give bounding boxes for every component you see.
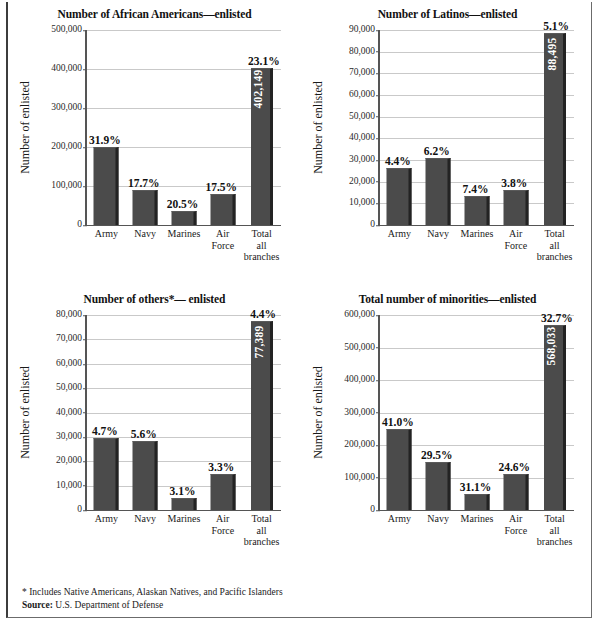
bar-percent-label: 3.3% <box>208 461 234 473</box>
bar[interactable]: 3.1% <box>171 498 196 510</box>
bar-slot: 17.7% <box>126 30 165 225</box>
x-axis-tick-label: Army <box>87 228 126 240</box>
y-axis-tick-label: 30,000 <box>349 155 380 165</box>
bar-percent-label: 4.7% <box>92 425 118 437</box>
y-axis-tick-label: 20,000 <box>349 177 380 187</box>
bar-percent-label: 41.0% <box>382 416 414 428</box>
y-axis-tick-label: 500,000 <box>344 343 380 353</box>
y-axis-tick-label: 200,000 <box>344 440 380 450</box>
bar-percent-label: 32.7% <box>541 312 573 324</box>
bar-percent-label: 20.5% <box>167 198 199 210</box>
y-axis-tick-label: 10,000 <box>349 199 380 209</box>
bar[interactable]: 29.5% <box>426 462 451 510</box>
bar-percent-label: 31.9% <box>89 134 121 146</box>
y-axis-tick-label: 0 <box>77 220 87 230</box>
bar[interactable]: 5.1%88,495 <box>544 33 566 225</box>
bar-slot: 3.1% <box>165 315 204 510</box>
bar-slot: 3.8% <box>496 30 535 225</box>
bar-value-label: 88,495 <box>546 38 558 71</box>
bar[interactable]: 20.5% <box>171 211 196 225</box>
y-axis-tick-label: 0 <box>370 220 380 230</box>
bar[interactable]: 6.2% <box>426 158 451 225</box>
bar[interactable]: 23.1%402,149 <box>251 68 273 225</box>
figure-frame: Number of African Americans—enlisted Num… <box>6 2 592 618</box>
y-axis-tick-label: 80,000 <box>56 310 87 320</box>
x-axis-labels: ArmyNavyMarinesAirForceTotalallbranches <box>380 510 574 566</box>
bar[interactable]: 24.6% <box>503 474 528 510</box>
x-axis-tick-label: Navy <box>419 228 458 240</box>
bar-percent-label: 29.5% <box>421 449 453 461</box>
bar-value-label: 402,149 <box>253 70 265 109</box>
y-axis-tick-label: 0 <box>370 505 380 515</box>
y-axis-label: Number of enlisted <box>18 63 33 193</box>
source-line: Source: U.S. Department of Defense <box>22 599 283 612</box>
bar[interactable]: 4.4%77,389 <box>251 321 273 510</box>
chart-panel-others: Number of others*— enlisted Number of en… <box>8 287 301 565</box>
bar[interactable]: 3.8% <box>503 190 528 225</box>
chart-title: Number of others*— enlisted <box>8 293 301 305</box>
bar-slot: 7.4% <box>458 30 497 225</box>
bar[interactable]: 32.7%568,033 <box>544 325 566 510</box>
bar[interactable]: 7.4% <box>464 196 489 225</box>
bar-slot: 4.4%77,389 <box>242 315 281 510</box>
bar-slot: 23.1%402,149 <box>242 30 281 225</box>
x-axis-tick-label: Totalallbranches <box>535 513 574 548</box>
y-axis-tick-label: 300,000 <box>344 408 380 418</box>
plot-area: 010,00020,00030,00040,00050,00060,00070,… <box>378 30 574 226</box>
x-axis-tick-label: AirForce <box>496 228 535 251</box>
footnote: * Includes Native Americans, Alaskan Nat… <box>22 586 283 599</box>
bar-percent-label: 24.6% <box>498 461 530 473</box>
plot-area: 0100,000200,000300,000400,000500,00031.9… <box>85 30 281 226</box>
x-axis-tick-label: AirForce <box>496 513 535 536</box>
y-axis-tick-label: 50,000 <box>56 383 87 393</box>
chart-title: Number of Latinos—enlisted <box>301 8 594 20</box>
bar-slot: 5.1%88,495 <box>535 30 574 225</box>
bar-percent-label: 3.8% <box>501 177 527 189</box>
x-axis-tick-label: Marines <box>165 228 204 240</box>
bar-percent-label: 4.4% <box>250 308 276 320</box>
y-axis-tick-label: 30,000 <box>56 432 87 442</box>
bar[interactable]: 4.4% <box>387 168 412 225</box>
y-axis-tick-label: 60,000 <box>56 359 87 369</box>
y-axis-tick-label: 10,000 <box>56 481 87 491</box>
bar-slot: 20.5% <box>165 30 204 225</box>
bar-value-label: 568,033 <box>546 327 558 366</box>
charts-grid: Number of African Americans—enlisted Num… <box>8 2 594 558</box>
bar[interactable]: 4.7% <box>94 438 119 510</box>
plot-area: 010,00020,00030,00040,00050,00060,00070,… <box>85 315 281 511</box>
bar-slot: 31.9% <box>87 30 126 225</box>
y-axis-label: Number of enlisted <box>18 348 33 478</box>
bar-percent-label: 5.1% <box>543 20 569 32</box>
x-axis-tick-label: Navy <box>126 228 165 240</box>
bar-percent-label: 17.7% <box>128 177 160 189</box>
x-axis-tick-label: Totalallbranches <box>242 228 281 263</box>
source-text: U.S. Department of Defense <box>55 600 163 610</box>
bar-slot: 17.5% <box>203 30 242 225</box>
bar[interactable]: 31.1% <box>464 494 489 510</box>
y-axis-tick-label: 600,000 <box>344 310 380 320</box>
x-axis-tick-label: Army <box>380 513 419 525</box>
x-axis-tick-label: Marines <box>458 228 497 240</box>
figure-notes: * Includes Native Americans, Alaskan Nat… <box>22 586 283 612</box>
bar[interactable]: 41.0% <box>387 429 412 510</box>
x-axis-tick-label: Navy <box>126 513 165 525</box>
bar-percent-label: 6.2% <box>424 145 450 157</box>
chart-panel-total-minorities: Total number of minorities—enlisted Numb… <box>301 287 594 565</box>
bar-percent-label: 7.4% <box>463 183 489 195</box>
bar[interactable]: 5.6% <box>133 441 158 510</box>
bar[interactable]: 17.7% <box>133 190 158 225</box>
bar-slot: 6.2% <box>419 30 458 225</box>
bar-slot: 29.5% <box>419 315 458 510</box>
bar[interactable]: 31.9% <box>94 147 119 225</box>
bar-percent-label: 5.6% <box>131 428 157 440</box>
x-axis-tick-label: Navy <box>419 513 458 525</box>
y-axis-tick-label: 70,000 <box>349 69 380 79</box>
source-label: Source: <box>22 600 53 610</box>
bar[interactable]: 3.3% <box>210 474 235 510</box>
x-axis-labels: ArmyNavyMarinesAirForceTotalallbranches <box>87 510 281 566</box>
chart-title: Number of African Americans—enlisted <box>8 8 301 20</box>
y-axis-tick-label: 500,000 <box>51 25 87 35</box>
y-axis-tick-label: 70,000 <box>56 335 87 345</box>
bar[interactable]: 17.5% <box>210 194 235 225</box>
y-axis-tick-label: 20,000 <box>56 457 87 467</box>
